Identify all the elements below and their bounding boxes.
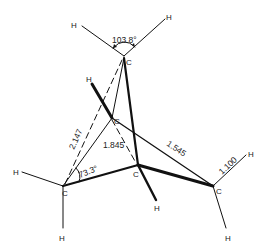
atom-h-left-down: H: [59, 234, 65, 243]
atom-h-right-up: H: [248, 150, 254, 159]
label-bond-ch: 1.100: [217, 154, 240, 176]
atom-h-top-right: H: [166, 13, 172, 22]
bond-cleft-ccenter: [63, 165, 138, 186]
atom-c-right: C: [216, 187, 222, 196]
atom-h-top-left: H: [71, 21, 77, 30]
atom-c-mid: C: [114, 117, 120, 126]
label-angle-top: 103.8°: [112, 35, 137, 45]
atom-h-center: H: [154, 204, 160, 213]
bond-ctop-ccenter: [124, 58, 138, 165]
atom-c-left: C: [62, 189, 68, 198]
atom-c-top: C: [126, 58, 132, 67]
label-dist-mid: 1.845: [103, 140, 125, 150]
bond-ctop-cmid: [112, 58, 124, 118]
atom-h-mid: H: [86, 75, 92, 84]
bond-ccenter-cright: [138, 165, 213, 186]
atom-c-center: C: [133, 170, 139, 179]
atom-h-right-down: H: [225, 234, 231, 243]
molecule-diagram: C C C C C H H H H H H H H 103.8° 73.3° 2…: [0, 0, 269, 249]
bond-cleft-h-left: [22, 172, 63, 186]
bond-cmid-cright: [112, 118, 213, 186]
atom-h-left: H: [13, 168, 19, 177]
